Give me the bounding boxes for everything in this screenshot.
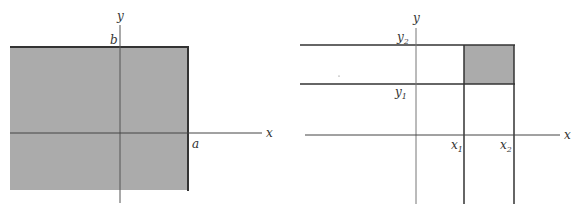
stray-dot: [338, 75, 339, 76]
y2-label: y2: [396, 30, 409, 46]
b-label: b: [110, 33, 118, 47]
x1-label: x1: [451, 138, 463, 154]
y1-label: y1: [394, 85, 407, 101]
y-axis-label-left: y: [116, 9, 124, 23]
right-figure: y x y2 y1 x1 x2: [300, 11, 571, 204]
x-axis-label-left: x: [266, 126, 273, 140]
shaded-rectangle-right: [464, 45, 514, 84]
x2-label: x2: [500, 138, 512, 154]
a-label: a: [192, 137, 199, 151]
left-figure: y b x a: [10, 9, 273, 203]
x-axis-label-right: x: [564, 128, 571, 142]
diagram-canvas: y b x a y x y2 y1 x1 x2: [0, 0, 573, 216]
y-axis-label-right: y: [412, 11, 420, 25]
shaded-region-left: [10, 47, 188, 190]
